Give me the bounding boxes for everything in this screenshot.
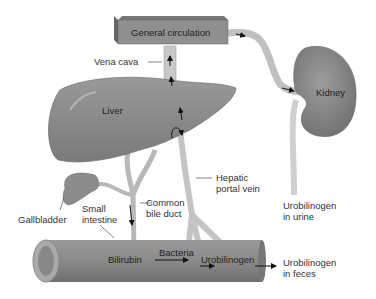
common-bile-duct-label-1: Common	[146, 197, 185, 208]
circulation-to-kidney-vessel	[228, 32, 300, 92]
bilirubin-label: Bilirubin	[108, 254, 142, 265]
urobilinogen-feces-label-1: Urobilinogen	[283, 257, 336, 268]
ureter-vessel	[293, 100, 296, 195]
gallbladder-organ	[63, 173, 99, 205]
hepatic-portal-vein-label-1: Hepatic	[216, 172, 248, 183]
kidney-label: Kidney	[316, 87, 345, 98]
urobilinogen-label: Urobilinogen	[201, 254, 254, 265]
hepatic-portal-vein-label-2: portal vein	[216, 183, 260, 194]
vena-cava-label: Vena cava	[94, 56, 138, 67]
urobilinogen-feces-label-2: in feces	[283, 268, 316, 279]
small-intestine-label-2: intestine	[82, 214, 117, 225]
bacteria-label: Bacteria	[159, 247, 194, 258]
common-bile-duct-label-2: bile duct	[146, 208, 181, 219]
gallbladder-label: Gallbladder	[18, 214, 67, 225]
urobilinogen-urine-label-2: in urine	[283, 211, 314, 222]
liver-label: Liver	[102, 105, 123, 116]
cystic-duct	[95, 184, 133, 195]
liver-organ	[48, 77, 236, 162]
general-circulation-label: General circulation	[131, 27, 210, 38]
urobilinogen-urine-label-1: Urobilinogen	[283, 200, 336, 211]
small-intestine-label-1: Small	[82, 203, 106, 214]
